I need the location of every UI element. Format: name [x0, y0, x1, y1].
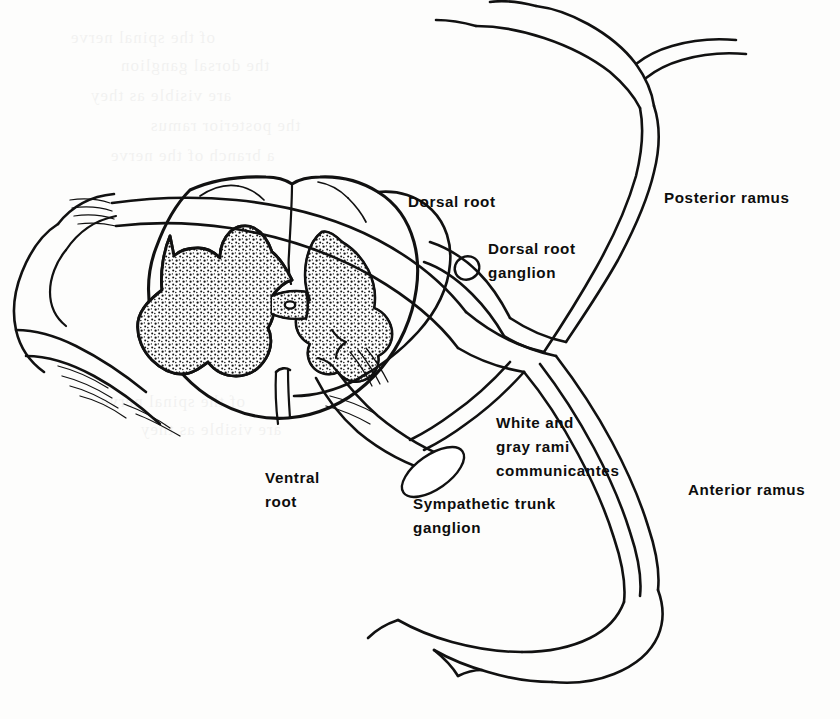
label-ventral-root-line1: Ventral — [265, 469, 320, 486]
posterior-ramus — [436, 1, 746, 352]
label-rami-line2: gray rami — [496, 438, 570, 455]
label-sympathetic-line1: Sympathetic trunk — [413, 495, 556, 512]
dura-mater-sheath — [14, 194, 160, 424]
label-rami-line3: communicantes — [496, 462, 619, 479]
label-rami-line1: White and — [496, 414, 574, 431]
label-dorsal-root-ganglion-line1: Dorsal root — [488, 240, 576, 257]
spinal-nerve-diagram: Dorsal root Dorsal root ganglion Posteri… — [0, 0, 840, 719]
label-sympathetic-line2: ganglion — [413, 519, 481, 536]
figure-container: of the spinal nerve the dorsal ganglion … — [0, 0, 840, 719]
dorsal-rootlets — [70, 199, 116, 226]
rami-communicantes — [410, 362, 524, 450]
label-anterior-ramus: Anterior ramus — [688, 481, 805, 498]
label-dorsal-root: Dorsal root — [408, 193, 496, 210]
label-posterior-ramus: Posterior ramus — [664, 189, 789, 206]
label-ventral-root-line2: root — [265, 493, 297, 510]
central-canal — [285, 301, 295, 308]
label-dorsal-root-ganglion-line2: ganglion — [488, 264, 556, 281]
ventral-rootlets — [58, 366, 180, 436]
